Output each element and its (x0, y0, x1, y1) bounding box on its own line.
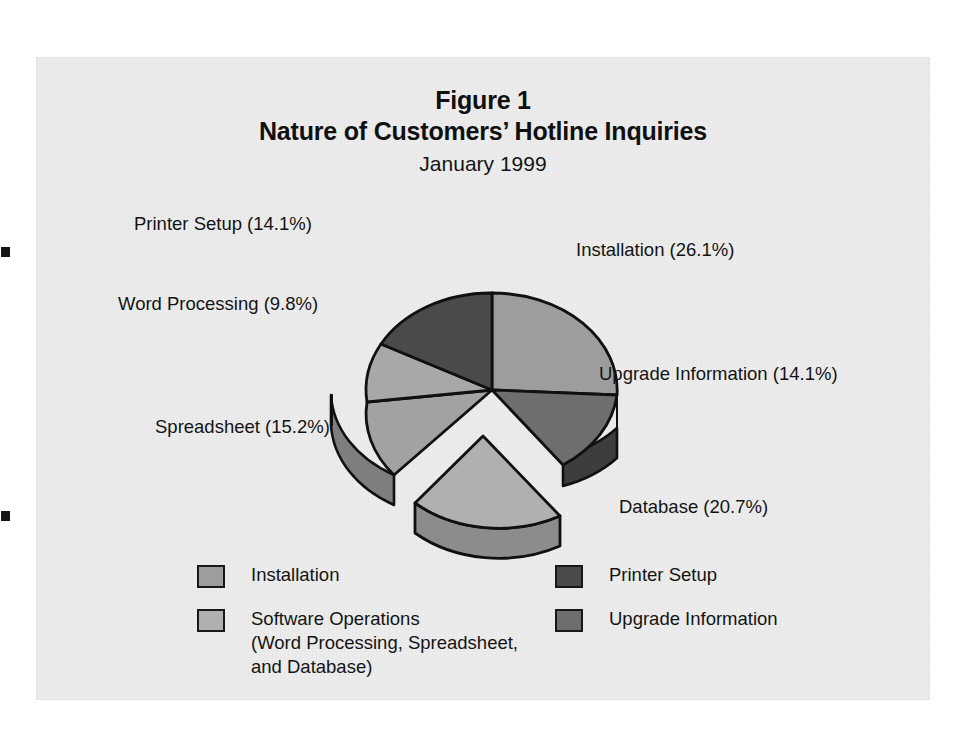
legend-label-software-operations: Software Operations (Word Processing, Sp… (251, 607, 518, 679)
legend-label-upgrade-information: Upgrade Information (609, 607, 778, 631)
slice-side-word-processing (331, 395, 332, 425)
scan-artifact-lower (1, 511, 10, 521)
legend-item-installation: Installation (197, 563, 527, 588)
legend-item-software-operations: Software Operations (Word Processing, Sp… (197, 607, 527, 679)
figure-panel: Figure 1 Nature of Customers’ Hotline In… (36, 57, 930, 700)
scan-artifact-upper (1, 247, 10, 257)
legend-label-installation: Installation (251, 563, 339, 587)
legend-item-upgrade-information: Upgrade Information (555, 607, 885, 632)
legend-swatch-software-operations (197, 609, 225, 632)
legend-column-left: Installation Software Operations (Word P… (197, 563, 527, 698)
legend-swatch-installation (197, 565, 225, 588)
legend-column-right: Printer Setup Upgrade Information (555, 563, 885, 651)
slice-label-spreadsheet: Spreadsheet (15.2%) (155, 417, 330, 437)
slice-label-printer-setup: Printer Setup (14.1%) (134, 214, 312, 234)
legend-swatch-printer-setup (555, 565, 583, 588)
legend-label-printer-setup: Printer Setup (609, 563, 717, 587)
legend-item-printer-setup: Printer Setup (555, 563, 885, 588)
chart-legend: Installation Software Operations (Word P… (36, 563, 930, 693)
slice-label-database: Database (20.7%) (619, 497, 768, 517)
slice-label-upgrade-information: Upgrade Information (14.1%) (599, 364, 838, 384)
slice-database (415, 436, 560, 528)
slice-label-word-processing: Word Processing (9.8%) (118, 294, 318, 314)
legend-swatch-upgrade-information (555, 609, 583, 632)
slice-label-installation: Installation (26.1%) (576, 240, 734, 260)
